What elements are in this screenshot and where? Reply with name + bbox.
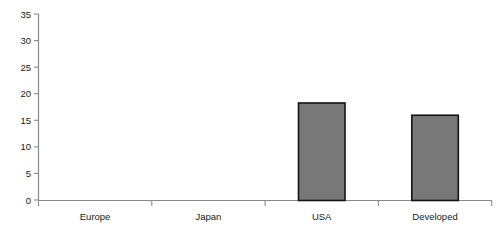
category-label-europe: Europe	[80, 211, 111, 222]
bar-chart: 35 30 25 20 15 10 5 0 Europe Japan	[0, 0, 503, 237]
chart-canvas: 35 30 25 20 15 10 5 0 Europe Japan	[0, 0, 503, 237]
category-label-japan: Japan	[195, 211, 221, 222]
bar-japan	[412, 115, 459, 200]
y-tick-label: 0	[26, 195, 31, 206]
y-tick-label: 25	[20, 62, 31, 73]
y-tick-label: 5	[26, 168, 31, 179]
category-label-usa: USA	[312, 211, 332, 222]
y-tick-label: 10	[20, 141, 31, 152]
bar-europe	[299, 103, 346, 201]
y-tick-label: 15	[20, 115, 31, 126]
y-tick-label: 35	[20, 9, 31, 20]
y-tick-label: 20	[20, 88, 31, 99]
y-tick-label: 30	[20, 35, 31, 46]
category-label-developed: Developed	[412, 211, 457, 222]
